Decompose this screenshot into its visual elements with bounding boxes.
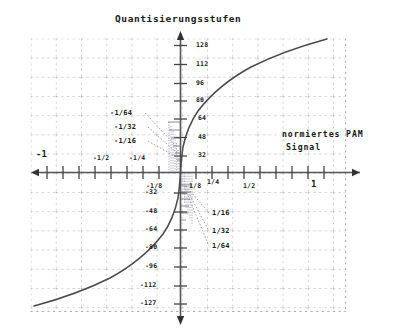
page-title: Quantisierungsstufen [115,14,241,24]
x-tick-label-neg-eighth: -1/8 [146,183,162,190]
y-tick-label-80: 80 [196,97,204,104]
legend-label-line1: normiertes PAM [282,130,364,138]
y-tick-label-96: 96 [196,80,204,87]
annotation-1-32: 1/32 [212,228,230,235]
x-tick-label-half: 1/2 [243,183,255,190]
plot-grid [31,38,346,311]
annotation-1-64: 1/64 [212,243,230,250]
y-tick-label-112: 112 [196,61,208,68]
legend-label-line2: Signal [286,143,321,151]
y-tick-label-32: 32 [198,152,206,159]
quantisation-characteristic-figure [0,0,397,334]
y-tick-label-neg80: -80 [145,244,157,251]
annotation-neg-1-16: -1/16 [114,138,136,145]
y-tick-label-neg48: -48 [145,208,157,215]
y-tick-label-64: 64 [198,115,206,122]
x-tick-label-neg-half: -1/2 [93,155,109,162]
x-tick-label-eighth: 1/8 [189,183,201,190]
annotation-1-16: 1/16 [212,210,230,217]
x-tick-label-neg1: -1 [36,150,47,159]
annotation-neg-1-32: -1/32 [114,124,136,131]
y-tick-label-128: 128 [196,42,208,49]
y-tick-label-neg96: -96 [145,263,157,270]
x-tick-label-1: 1 [311,180,316,189]
y-tick-label-48: 48 [198,134,206,141]
annotation-neg-1-64: -1/64 [110,110,132,117]
y-tick-label-neg127: -127 [140,300,156,307]
x-tick-label-quarter: 1/4 [207,179,219,186]
x-tick-label-neg-quarter: -1/4 [129,155,145,162]
y-tick-label-neg112: -112 [140,282,156,289]
y-tick-label-neg64: -64 [145,226,157,233]
